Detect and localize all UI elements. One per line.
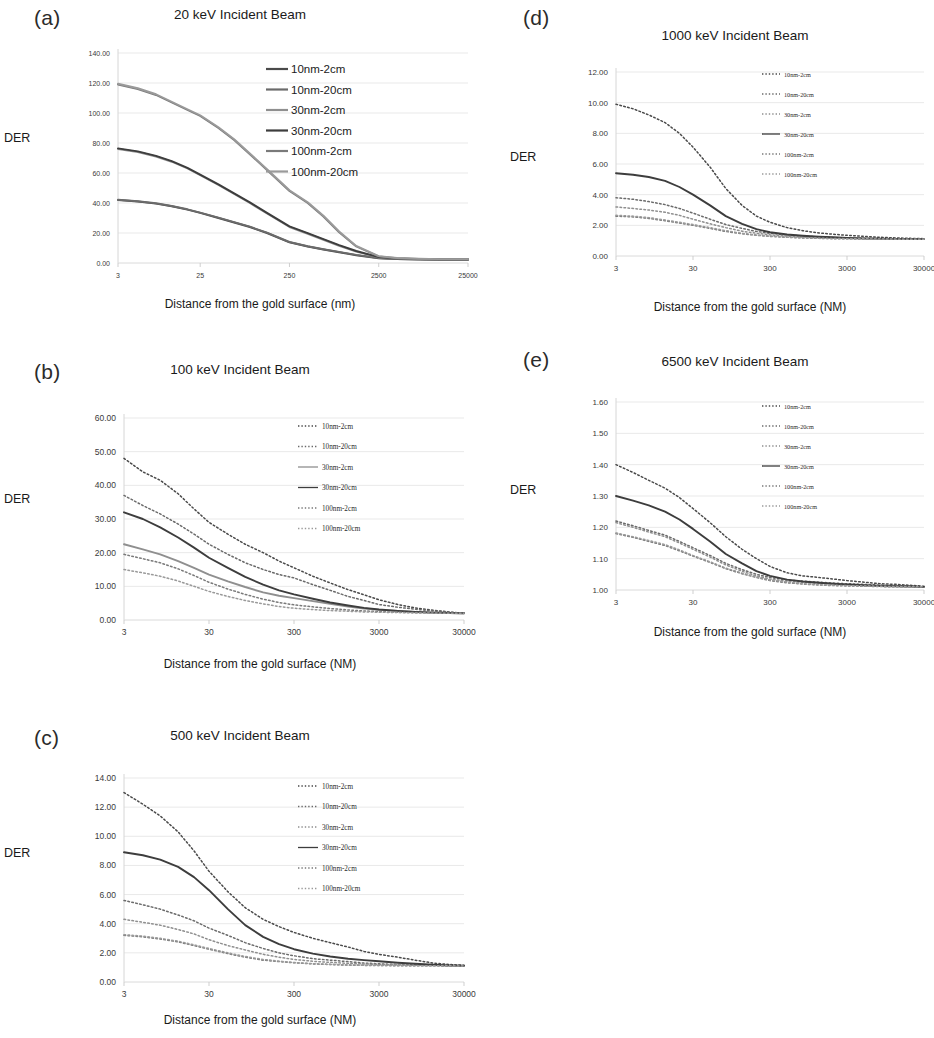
y-tick-label: 2.00 xyxy=(99,948,116,958)
series-line xyxy=(616,104,924,238)
series-line xyxy=(616,173,924,239)
x-tick-label: 25000 xyxy=(458,272,478,279)
y-tick-label: 120.00 xyxy=(89,80,111,87)
legend-item-label: 100nm-20cm xyxy=(784,503,817,510)
panel-a-x-axis-title: Distance from the gold surface (nm) xyxy=(100,297,420,311)
y-tick-label: 14.00 xyxy=(95,773,117,783)
panel-b-x-axis-title: Distance from the gold surface (NM) xyxy=(90,657,430,671)
series-line xyxy=(616,521,924,587)
y-tick-label: 1.10 xyxy=(592,555,608,564)
series-line xyxy=(616,465,924,587)
x-tick-label: 30 xyxy=(204,989,214,999)
x-tick-label: 3 xyxy=(122,989,127,999)
series-line xyxy=(616,207,924,239)
panel-c-title: 500 keV Incident Beam xyxy=(90,728,390,743)
legend-item-label: 30nm-20cm xyxy=(784,463,814,470)
legend-item-label: 30nm-20cm xyxy=(784,131,814,138)
y-tick-label: 40.00 xyxy=(95,480,117,490)
legend-item-label: 100nm-2cm xyxy=(322,505,357,513)
legend: 10nm-2cm10nm-20cm30nm-2cm30nm-20cm100nm-… xyxy=(762,71,817,178)
panel-e-title: 6500 keV Incident Beam xyxy=(590,354,880,369)
series-group xyxy=(124,793,464,966)
panel-d-letter: (d) xyxy=(523,6,550,30)
legend-item-label: 30nm-20cm xyxy=(322,484,357,492)
x-tick-label: 30 xyxy=(689,264,698,273)
series-group xyxy=(124,458,464,613)
legend-item-label: 30nm-2cm xyxy=(784,111,811,118)
y-tick-label: 60.00 xyxy=(92,170,110,177)
legend-item-label: 10nm-2cm xyxy=(784,403,811,410)
legend: 10nm-2cm10nm-20cm30nm-2cm30nm-20cm100nm-… xyxy=(762,403,817,510)
series-line xyxy=(124,495,464,613)
panel-c-y-axis-title: DER xyxy=(4,846,30,860)
y-tick-label: 6.00 xyxy=(592,160,608,169)
legend-item-label: 10nm-20cm xyxy=(322,443,357,451)
series-line xyxy=(124,852,464,965)
y-tick-label: 12.00 xyxy=(588,68,609,77)
legend: 10nm-2cm10nm-20cm30nm-2cm30nm-20cm100nm-… xyxy=(266,63,358,178)
y-tick-label: 8.00 xyxy=(99,860,116,870)
series-group xyxy=(616,104,924,239)
series-line xyxy=(124,544,464,613)
x-tick-label: 3 xyxy=(116,272,120,279)
y-tick-label: 0.00 xyxy=(99,615,116,625)
y-tick-label: 2.00 xyxy=(592,221,608,230)
series-group xyxy=(616,465,924,587)
legend-item-label: 10nm-20cm xyxy=(291,84,352,96)
legend-item-label: 30nm-20cm xyxy=(322,844,357,852)
panel-e-y-axis-title: DER xyxy=(510,483,536,497)
x-tick-label: 25 xyxy=(196,272,204,279)
x-tick-label: 3 xyxy=(614,264,619,273)
y-tick-label: 10.00 xyxy=(95,831,117,841)
panel-c-plot: 0.002.004.006.008.0010.0012.0014.0033030… xyxy=(66,768,471,998)
series-line xyxy=(118,200,468,260)
x-tick-label: 30000 xyxy=(913,264,934,273)
legend-item-label: 100nm-2cm xyxy=(291,145,352,157)
panel-e-plot: 1.001.101.201.301.401.501.60330300300030… xyxy=(562,392,932,614)
panel-a-y-axis-title: DER xyxy=(4,131,30,145)
legend-item-label: 10nm-2cm xyxy=(322,783,354,791)
panel-a-letter: (a) xyxy=(34,6,61,30)
legend: 10nm-2cm10nm-20cm30nm-2cm30nm-20cm100nm-… xyxy=(298,783,361,894)
x-tick-label: 30000 xyxy=(913,598,934,607)
series-line xyxy=(616,215,924,239)
y-tick-label: 20.00 xyxy=(92,230,110,237)
y-tick-label: 100.00 xyxy=(89,110,111,117)
legend-item-label: 30nm-2cm xyxy=(291,104,345,116)
legend-item-label: 10nm-2cm xyxy=(784,71,811,78)
panel-b: (b) 100 keV Incident Beam DER Distance f… xyxy=(0,350,480,680)
panel-a: (a) 20 keV Incident Beam DER Distance fr… xyxy=(0,0,480,330)
panel-e-x-axis-title: Distance from the gold surface (NM) xyxy=(585,625,915,639)
legend-item-label: 100nm-20cm xyxy=(784,171,817,178)
legend-item-label: 100nm-20cm xyxy=(322,885,361,893)
y-tick-label: 60.00 xyxy=(95,413,117,423)
legend-item-label: 100nm-2cm xyxy=(784,151,814,158)
x-tick-label: 30000 xyxy=(452,989,476,999)
legend-item-label: 100nm-2cm xyxy=(784,483,814,490)
y-tick-label: 1.40 xyxy=(592,461,608,470)
y-tick-label: 10.00 xyxy=(95,581,117,591)
series-line xyxy=(616,496,924,587)
x-tick-label: 3000 xyxy=(838,598,856,607)
y-tick-label: 1.20 xyxy=(592,523,608,532)
y-tick-label: 1.00 xyxy=(592,586,608,595)
legend-item-label: 10nm-2cm xyxy=(291,63,345,75)
legend-item-label: 100nm-2cm xyxy=(322,865,357,873)
legend-item-label: 100nm-20cm xyxy=(291,166,358,178)
y-tick-label: 6.00 xyxy=(99,890,116,900)
y-tick-label: 0.00 xyxy=(592,252,608,261)
x-tick-label: 30 xyxy=(204,627,214,637)
y-tick-label: 1.30 xyxy=(592,492,608,501)
panel-b-letter: (b) xyxy=(34,360,61,384)
panel-b-y-axis-title: DER xyxy=(4,492,30,506)
series-line xyxy=(124,793,464,966)
x-tick-label: 3 xyxy=(614,598,619,607)
y-tick-label: 8.00 xyxy=(592,129,608,138)
y-tick-label: 50.00 xyxy=(95,447,117,457)
y-tick-label: 40.00 xyxy=(92,200,110,207)
x-tick-label: 300 xyxy=(763,264,777,273)
series-line xyxy=(118,200,468,260)
legend: 10nm-2cm10nm-20cm30nm-2cm30nm-20cm100nm-… xyxy=(298,423,361,533)
panel-c-x-axis-title: Distance from the gold surface (NM) xyxy=(90,1013,430,1027)
series-line xyxy=(124,935,464,966)
